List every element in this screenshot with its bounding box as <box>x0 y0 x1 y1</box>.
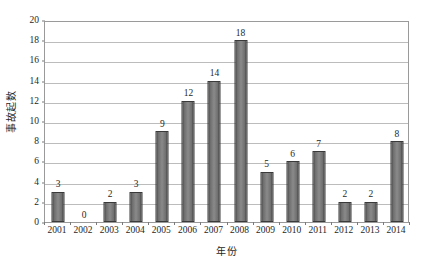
bar-value-2008: 18 <box>236 29 246 39</box>
bar-2005 <box>156 131 169 222</box>
y-axis-tick-labels: 02468101214161820 <box>18 21 42 223</box>
bar-value-2001: 3 <box>56 180 61 190</box>
x-axis-tick-mark <box>253 222 254 225</box>
bar-group-2009: 5 <box>254 22 280 222</box>
x-axis-tick-mark <box>305 222 306 225</box>
y-axis-title: 事故起数 <box>0 0 20 223</box>
y-axis-tick-12: 12 <box>30 97 40 107</box>
bar-group-2014: 8 <box>384 22 410 222</box>
bar-value-2003: 2 <box>108 190 113 200</box>
bar-2014 <box>390 141 403 222</box>
bar-group-2007: 14 <box>201 22 227 222</box>
bar-2004 <box>130 192 143 222</box>
x-axis-tick-mark <box>174 222 175 225</box>
bar-2013 <box>364 202 377 222</box>
x-axis-tick-mark <box>148 222 149 225</box>
x-axis-tick-2007: 2007 <box>204 226 223 236</box>
bar-group-2006: 12 <box>175 22 201 222</box>
bar-value-2005: 9 <box>160 120 165 130</box>
bar-2003 <box>104 202 117 222</box>
y-axis-title-label: 事故起数 <box>3 91 18 133</box>
x-axis-tick-mark <box>357 222 358 225</box>
x-axis-tick-mark <box>122 222 123 225</box>
x-axis-tick-2009: 2009 <box>256 226 275 236</box>
x-axis-tick-mark <box>383 222 384 225</box>
bar-2011 <box>312 151 325 222</box>
bar-2007 <box>208 81 221 222</box>
x-axis-tick-mark <box>200 222 201 225</box>
x-axis-tick-2004: 2004 <box>126 226 145 236</box>
bar-group-2011: 7 <box>306 22 332 222</box>
bar-chart: 事故起数 02468101214161820 30239121418567228… <box>0 0 422 267</box>
bar-value-2004: 3 <box>134 180 139 190</box>
bar-value-2010: 6 <box>290 150 295 160</box>
bar-group-2003: 2 <box>97 22 123 222</box>
y-axis-tick-4: 4 <box>34 178 39 188</box>
bar-value-2002: 0 <box>82 211 87 221</box>
bar-group-2010: 6 <box>280 22 306 222</box>
x-axis-title: 年份 <box>44 243 409 258</box>
x-axis-tick-mark <box>279 222 280 225</box>
y-axis-tick-14: 14 <box>30 77 40 87</box>
x-axis-tick-mark <box>44 222 45 225</box>
bar-2009 <box>260 172 273 223</box>
bar-value-2014: 8 <box>395 130 400 140</box>
bar-group-2001: 3 <box>45 22 71 222</box>
x-axis-tick-mark <box>227 222 228 225</box>
bar-value-2013: 2 <box>369 190 374 200</box>
x-axis-tick-mark <box>96 222 97 225</box>
x-axis-tick-labels: 2001200220032004200520062007200820092010… <box>44 226 409 242</box>
bar-2001 <box>52 192 65 222</box>
bar-2008 <box>234 40 247 222</box>
x-axis-tick-2002: 2002 <box>74 226 93 236</box>
bar-group-2005: 9 <box>149 22 175 222</box>
x-axis-tick-2003: 2003 <box>100 226 119 236</box>
x-axis-tick-2011: 2011 <box>308 226 327 236</box>
y-axis-tick-6: 6 <box>34 158 39 168</box>
y-axis-tick-10: 10 <box>30 117 40 127</box>
bar-group-2012: 2 <box>332 22 358 222</box>
x-axis-tick-2010: 2010 <box>282 226 301 236</box>
x-axis-tick-2012: 2012 <box>334 226 353 236</box>
bar-group-2008: 18 <box>228 22 254 222</box>
y-axis-tick-18: 18 <box>30 36 40 46</box>
bar-group-2013: 2 <box>358 22 384 222</box>
plot-area: 30239121418567228 <box>44 21 409 223</box>
x-axis-tick-2001: 2001 <box>48 226 67 236</box>
bar-2010 <box>286 161 299 222</box>
x-axis-tick-2005: 2005 <box>152 226 171 236</box>
bars-layer: 30239121418567228 <box>45 22 408 222</box>
y-axis-tick-20: 20 <box>30 16 40 26</box>
bar-2006 <box>182 101 195 222</box>
x-axis-tick-2013: 2013 <box>360 226 379 236</box>
x-axis-tick-mark <box>409 222 410 225</box>
x-axis-tick-2008: 2008 <box>230 226 249 236</box>
x-axis-tick-mark <box>70 222 71 225</box>
x-axis-tick-mark <box>331 222 332 225</box>
bar-value-2011: 7 <box>316 140 321 150</box>
bar-value-2012: 2 <box>342 190 347 200</box>
bar-value-2006: 12 <box>184 89 194 99</box>
x-axis-tick-2006: 2006 <box>178 226 197 236</box>
y-axis-tick-16: 16 <box>30 57 40 67</box>
x-axis-tick-2014: 2014 <box>386 226 405 236</box>
bar-value-2007: 14 <box>210 69 220 79</box>
y-axis-tick-8: 8 <box>34 137 39 147</box>
bar-group-2004: 3 <box>123 22 149 222</box>
y-axis-tick-2: 2 <box>34 198 39 208</box>
y-axis-tick-0: 0 <box>34 218 39 228</box>
bar-value-2009: 5 <box>264 160 269 170</box>
bar-2012 <box>338 202 351 222</box>
bar-group-2002: 0 <box>71 22 97 222</box>
